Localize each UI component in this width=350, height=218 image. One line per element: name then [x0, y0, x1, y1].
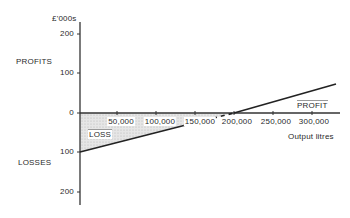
x-tick-250000: 250,000	[260, 117, 292, 126]
y-tick-100: 100	[44, 68, 74, 77]
losses-region-label: LOSSES	[18, 158, 51, 167]
x-tick-100000: 100,000	[144, 117, 176, 126]
loss-annotation: LOSS	[88, 129, 112, 139]
y-tick-neg-200: 200	[44, 187, 74, 196]
x-tick-50000: 50,000	[107, 117, 135, 126]
x-tick-300000: 300,000	[298, 117, 330, 126]
y-tick-200: 200	[44, 29, 74, 38]
profit-annotation: PROFIT	[297, 100, 328, 110]
y-unit-label: £'000s	[52, 14, 77, 23]
break-even-chart: £'000s 200 100 0 100 200 PROFITS LOSSES …	[0, 0, 350, 218]
x-tick-200000: 200,000	[221, 117, 253, 126]
profits-region-label: PROFITS	[16, 57, 52, 66]
y-tick-neg-100: 100	[44, 147, 74, 156]
x-tick-150000: 150,000	[184, 117, 216, 126]
x-axis-label: Output litres	[288, 132, 334, 141]
y-tick-0: 0	[44, 108, 74, 117]
